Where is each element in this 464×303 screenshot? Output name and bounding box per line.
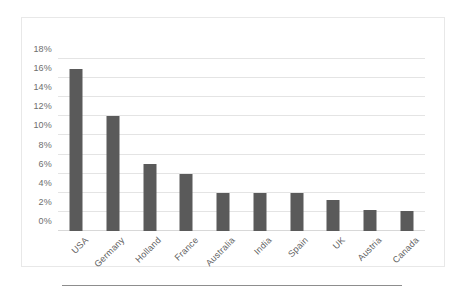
plot-area: 0%2%4%6%8%10%12%14%16%18% USAGermanyHoll… xyxy=(58,59,425,231)
x-axis-tick-label: Canada xyxy=(390,235,420,265)
bar xyxy=(180,174,193,231)
bar xyxy=(363,210,376,231)
bar xyxy=(290,193,303,231)
y-axis-tick-label: 8% xyxy=(39,140,52,150)
y-axis-tick-label: 18% xyxy=(33,44,52,54)
x-axis-tick-label: Australia xyxy=(204,235,237,268)
x-axis-tick-label: USA xyxy=(69,235,90,256)
horizontal-rule xyxy=(62,285,402,286)
bar-slot xyxy=(205,59,242,231)
bar xyxy=(217,193,230,231)
bar-slot xyxy=(315,59,352,231)
bar xyxy=(400,211,413,231)
y-axis-tick-label: 12% xyxy=(33,101,52,111)
bar xyxy=(143,164,156,231)
x-axis-tick-label: France xyxy=(172,235,200,263)
bar-slot xyxy=(58,59,95,231)
bar xyxy=(70,69,83,231)
y-axis-tick-label: 4% xyxy=(39,178,52,188)
x-axis-tick-label: Spain xyxy=(286,235,310,259)
y-axis-tick-label: 16% xyxy=(33,63,52,73)
bar-series xyxy=(58,59,425,231)
bar-slot xyxy=(388,59,425,231)
bar-chart-figure: 0%2%4%6%8%10%12%14%16%18% USAGermanyHoll… xyxy=(21,17,445,267)
y-axis-tick-label: 10% xyxy=(33,120,52,130)
bar xyxy=(253,193,266,231)
bar-slot xyxy=(95,59,132,231)
y-axis-tick-label: 6% xyxy=(39,159,52,169)
x-axis-tick-label: Austria xyxy=(356,235,384,263)
y-axis-tick-label: 2% xyxy=(39,197,52,207)
bar xyxy=(327,200,340,231)
bar-slot xyxy=(131,59,168,231)
bar-slot xyxy=(278,59,315,231)
x-axis-tick-label: UK xyxy=(331,235,347,251)
bar-slot xyxy=(352,59,389,231)
y-axis-tick-label: 0% xyxy=(39,216,52,226)
bar-slot xyxy=(168,59,205,231)
x-axis-tick-label: Holland xyxy=(134,235,164,265)
x-axis-tick-label: India xyxy=(252,235,274,257)
y-axis-tick-label: 14% xyxy=(33,82,52,92)
x-axis-tick-label: Germany xyxy=(92,235,126,269)
bar-slot xyxy=(242,59,279,231)
bar xyxy=(107,116,120,231)
